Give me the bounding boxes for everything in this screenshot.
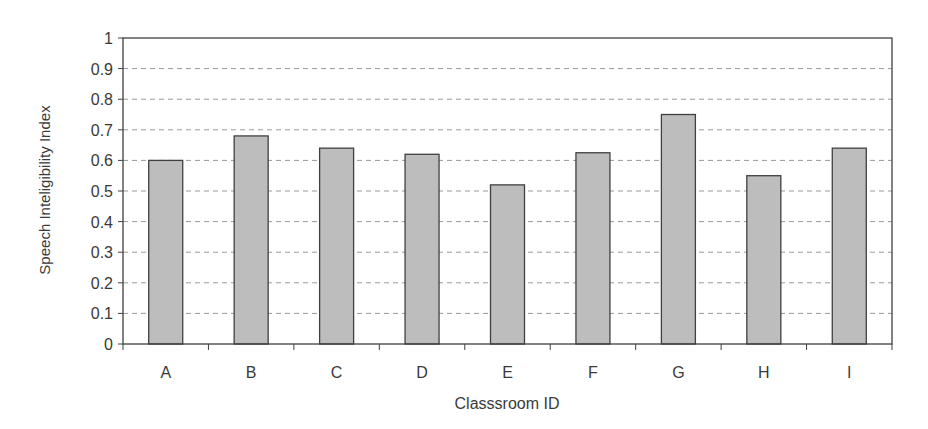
x-tick-label: A <box>160 364 171 381</box>
x-tick-label: G <box>672 364 684 381</box>
y-tick-label: 0.5 <box>91 183 113 200</box>
chart-canvas: 00.10.20.30.40.50.60.70.80.91 ABCDEFGHI … <box>0 0 928 429</box>
x-tick-label: I <box>847 364 851 381</box>
y-axis-ticks: 00.10.20.30.40.50.60.70.80.91 <box>91 30 123 353</box>
y-tick-label: 0.8 <box>91 91 113 108</box>
x-tick-label: C <box>331 364 343 381</box>
bar-i <box>832 148 866 344</box>
x-tick-label: H <box>758 364 770 381</box>
bar-e <box>491 185 525 344</box>
x-axis-title: Classsroom ID <box>455 395 560 412</box>
y-tick-label: 0.3 <box>91 244 113 261</box>
bar-chart: 00.10.20.30.40.50.60.70.80.91 ABCDEFGHI … <box>0 0 928 429</box>
x-tick-label: B <box>246 364 257 381</box>
y-axis-title: Speech Inteligibility Index <box>36 105 53 275</box>
y-tick-label: 0.9 <box>91 61 113 78</box>
bar-b <box>234 136 268 344</box>
y-tick-label: 0.6 <box>91 152 113 169</box>
x-axis-ticks: ABCDEFGHI <box>123 344 892 381</box>
bars <box>149 115 867 345</box>
x-tick-label: D <box>416 364 428 381</box>
y-tick-label: 0.2 <box>91 275 113 292</box>
y-tick-label: 0.7 <box>91 122 113 139</box>
y-tick-label: 0.4 <box>91 214 113 231</box>
bar-a <box>149 160 183 344</box>
bar-g <box>661 115 695 345</box>
bar-c <box>320 148 354 344</box>
y-tick-label: 1 <box>104 30 113 47</box>
y-tick-label: 0.1 <box>91 305 113 322</box>
bar-d <box>405 154 439 344</box>
bar-f <box>576 153 610 344</box>
bar-h <box>747 176 781 344</box>
x-tick-label: E <box>502 364 513 381</box>
x-tick-label: F <box>588 364 598 381</box>
y-tick-label: 0 <box>104 336 113 353</box>
